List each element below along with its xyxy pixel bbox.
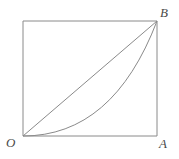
geometry-figure: O A B: [0, 0, 179, 159]
vertex-label-O: O: [6, 136, 15, 149]
figure-canvas: [0, 0, 179, 159]
diagonal-line-OB: [23, 21, 157, 136]
vertex-label-A: A: [159, 137, 167, 150]
vertex-label-B: B: [160, 6, 168, 19]
